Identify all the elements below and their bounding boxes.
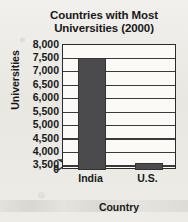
y-axis-tick-label: 7,000 — [1, 64, 59, 76]
y-axis-tick-label: 7,500 — [1, 51, 59, 63]
y-axis-tick-label: 6,000 — [1, 91, 59, 103]
y-axis-tick-label: 6,500 — [1, 78, 59, 90]
y-axis-tick-label: 5,500 — [1, 105, 59, 117]
y-axis-tick-labels: 8,0007,5007,0006,5006,0005,5005,0004,500… — [0, 0, 59, 222]
x-axis-tick-label: U.S. — [108, 172, 188, 184]
y-axis-tick-label: 4,500 — [1, 132, 59, 144]
y-axis-tick-label: 8,000 — [1, 38, 59, 50]
plot-area — [62, 44, 176, 169]
x-axis-title: Country — [62, 201, 176, 213]
y-axis-tick-label: 4,000 — [1, 145, 59, 157]
bar-india[interactable] — [78, 58, 106, 170]
bar-chart: Countries with Most Universities (2000) … — [0, 0, 188, 222]
bar-u-s[interactable] — [135, 163, 163, 170]
y-axis-tick-label: 5,000 — [1, 118, 59, 130]
